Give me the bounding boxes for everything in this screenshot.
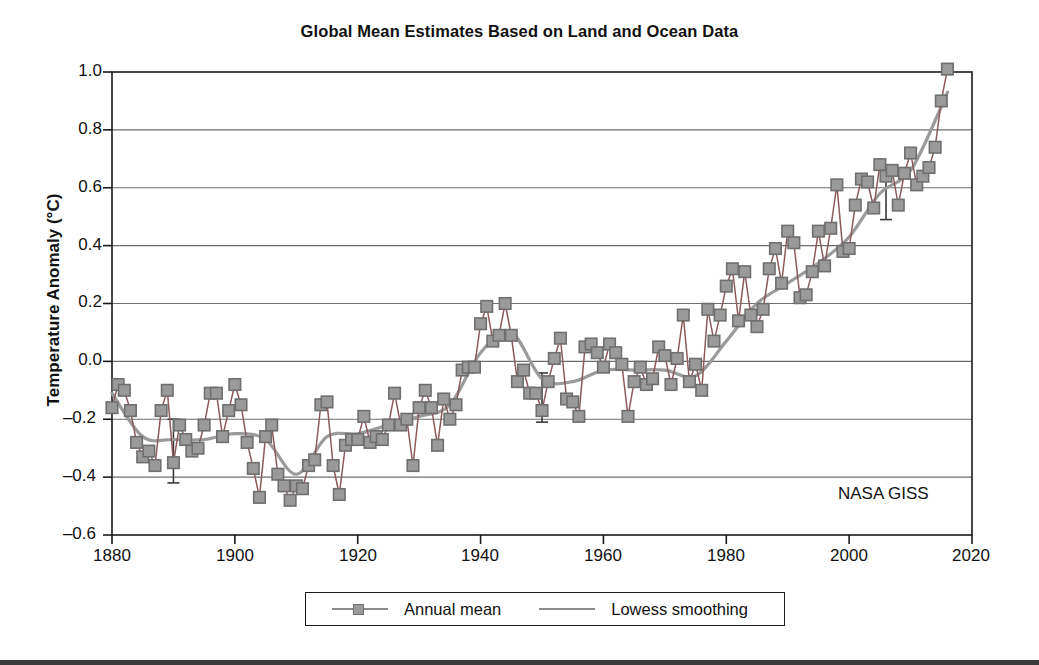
axis-ticks — [103, 72, 972, 544]
chart-figure: Global Mean Estimates Based on Land and … — [0, 0, 1039, 665]
legend-swatch-annual-mean-icon — [332, 600, 388, 618]
legend-swatch-lowess-icon — [539, 600, 595, 618]
legend-label: Annual mean — [404, 600, 501, 619]
legend-label: Lowess smoothing — [611, 600, 748, 619]
scan-edge-strip — [0, 660, 1039, 665]
annual-mean-line — [112, 69, 947, 500]
source-annotation: NASA GISS — [838, 484, 929, 504]
error-bars — [167, 173, 892, 483]
legend-item-annual-mean: Annual mean — [332, 600, 501, 619]
plot-area — [0, 0, 1039, 665]
legend-item-lowess-smoothing: Lowess smoothing — [539, 600, 748, 619]
lowess-smoothing-line — [112, 92, 947, 474]
chart-legend: Annual mean Lowess smoothing — [305, 592, 785, 626]
